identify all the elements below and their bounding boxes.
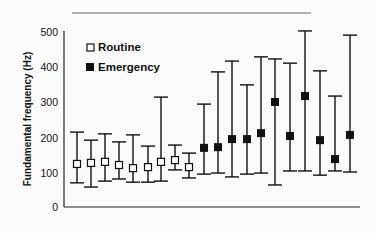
routine-point bbox=[168, 145, 182, 170]
filled-square-marker-icon bbox=[346, 131, 354, 139]
emergency-point bbox=[240, 85, 254, 174]
emergency-point bbox=[298, 31, 312, 171]
routine-point bbox=[98, 134, 112, 181]
routine-point bbox=[84, 140, 98, 187]
open-square-marker-icon bbox=[172, 157, 179, 164]
routine-point bbox=[112, 142, 126, 179]
filled-square-marker-icon bbox=[271, 98, 279, 106]
emergency-point bbox=[211, 72, 225, 173]
routine-point bbox=[70, 132, 84, 183]
y-tick-400: 400 bbox=[40, 61, 58, 73]
y-tick-300: 300 bbox=[40, 96, 58, 108]
open-square-marker-icon bbox=[130, 165, 137, 172]
emergency-point bbox=[254, 57, 268, 173]
emergency-point bbox=[313, 71, 327, 175]
routine-point bbox=[154, 97, 168, 181]
emergency-legend-marker-icon bbox=[86, 63, 94, 71]
legend-routine: Routine bbox=[98, 41, 141, 53]
filled-square-marker-icon bbox=[228, 135, 236, 143]
emergency-point bbox=[343, 35, 357, 172]
open-square-marker-icon bbox=[116, 162, 123, 169]
routine-point bbox=[126, 135, 140, 182]
filled-square-marker-icon bbox=[316, 136, 324, 144]
open-square-marker-icon bbox=[145, 164, 152, 171]
y-tick-labels: 0 100 200 300 400 500 bbox=[40, 26, 58, 213]
open-square-marker-icon bbox=[158, 158, 165, 165]
emergency-point bbox=[283, 63, 297, 171]
emergency-point bbox=[225, 61, 239, 177]
filled-square-marker-icon bbox=[214, 143, 222, 151]
filled-square-marker-icon bbox=[331, 155, 339, 163]
filled-square-marker-icon bbox=[257, 129, 265, 137]
open-square-marker-icon bbox=[88, 159, 95, 166]
filled-square-marker-icon bbox=[286, 132, 294, 140]
routine-legend-marker-icon bbox=[87, 44, 94, 51]
y-tick-500: 500 bbox=[40, 26, 58, 38]
legend: Routine Emergency bbox=[86, 41, 161, 73]
routine-point bbox=[141, 146, 155, 182]
emergency-point bbox=[268, 59, 282, 185]
filled-square-marker-icon bbox=[301, 92, 309, 100]
data-series bbox=[70, 31, 357, 187]
open-square-marker-icon bbox=[102, 158, 109, 165]
y-axis-label: Fundamental frequency (Hz) bbox=[22, 52, 33, 186]
routine-point bbox=[182, 153, 196, 178]
emergency-point bbox=[328, 96, 342, 171]
emergency-point bbox=[197, 104, 211, 174]
legend-emergency: Emergency bbox=[98, 61, 161, 73]
open-square-marker-icon bbox=[74, 160, 81, 167]
filled-square-marker-icon bbox=[243, 135, 251, 143]
y-tick-200: 200 bbox=[40, 132, 58, 144]
y-tick-0: 0 bbox=[52, 201, 58, 213]
filled-square-marker-icon bbox=[200, 144, 208, 152]
y-tick-100: 100 bbox=[40, 167, 58, 179]
error-bar-chart: 0 100 200 300 400 500 Fundamental freque… bbox=[0, 0, 375, 233]
open-square-marker-icon bbox=[186, 164, 193, 171]
